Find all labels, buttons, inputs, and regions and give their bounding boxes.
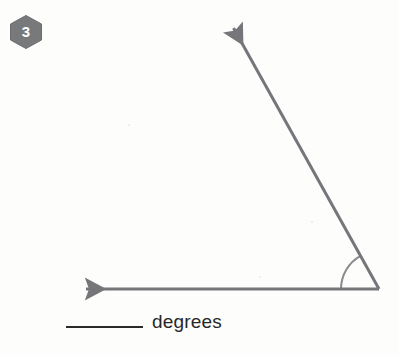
diagonal-ray: [234, 28, 380, 289]
worksheet-page: 3 degrees: [0, 0, 398, 355]
scan-speckle: [311, 221, 313, 223]
answer-blank-input[interactable]: [66, 310, 143, 328]
answer-row: degrees: [66, 310, 222, 333]
scan-speckle: [128, 124, 130, 126]
scan-speckle: [259, 276, 261, 278]
answer-unit-label: degrees: [152, 311, 222, 333]
angle-arc: [341, 256, 361, 289]
angle-figure: [0, 0, 398, 355]
